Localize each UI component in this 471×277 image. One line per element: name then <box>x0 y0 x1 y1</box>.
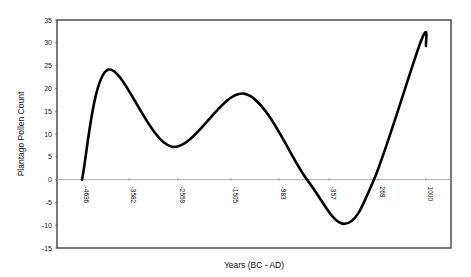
x-axis-title: Years (BC - AD) <box>224 260 284 270</box>
y-tick-label: -15 <box>42 245 52 252</box>
x-tick-label: -983 <box>280 187 287 200</box>
x-tick-label: -357 <box>330 187 337 200</box>
x-tick-label: 1000 <box>427 187 434 202</box>
x-tick-label: -1505 <box>232 187 239 204</box>
y-tick-label: 35 <box>44 17 52 24</box>
chart-canvas: -4636-3582-2559-1505-983-3572691000 3530… <box>0 0 471 277</box>
y-tick-label: 30 <box>44 39 52 46</box>
y-axis-title: Plantago Pollen Count <box>16 91 26 176</box>
y-tick-label: 10 <box>44 131 52 138</box>
x-tick-label: -4636 <box>83 187 90 204</box>
x-tick-label: -3582 <box>130 187 137 204</box>
x-axis-ticks: -4636-3582-2559-1505-983-3572691000 <box>82 178 434 204</box>
y-tick-label: -10 <box>42 222 52 229</box>
y-tick-label: 25 <box>44 62 52 69</box>
y-tick-label: 20 <box>44 85 52 92</box>
y-tick-label: 5 <box>48 153 52 160</box>
y-tick-label: 15 <box>44 108 52 115</box>
y-tick-label: -5 <box>46 199 52 206</box>
x-tick-label: 269 <box>379 187 386 198</box>
y-tick-label: 0 <box>48 176 52 183</box>
y-axis-ticks: 35302520151050-5-10-15 <box>42 17 57 252</box>
x-tick-label: -2559 <box>179 187 186 204</box>
plot-frame <box>57 20 451 248</box>
